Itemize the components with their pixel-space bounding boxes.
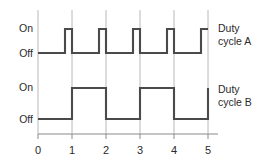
series-a-label-line1: Duty [218,22,240,34]
gridlines [38,10,208,134]
chart-canvas: On Off On Off 0 1 2 3 4 5 Duty [0,0,269,164]
x-tick-labels: 0 1 2 3 4 5 [35,144,211,156]
x-tick-label-3: 3 [137,144,143,156]
series-b-label-line1: Duty [218,83,240,95]
series-label-duty-cycle-b: Duty cycle B [218,83,252,108]
x-tick-label-0: 0 [35,144,41,156]
x-tick-label-1: 1 [69,144,75,156]
x-tick-label-4: 4 [171,144,177,156]
y-label-a-on: On [19,22,33,34]
x-tick-label-5: 5 [205,144,211,156]
y-label-a-off: Off [19,47,33,59]
duty-cycle-chart: On Off On Off 0 1 2 3 4 5 Duty [0,0,269,164]
x-tick-label-2: 2 [103,144,109,156]
waveform-duty-cycle-b [38,88,208,119]
waveform-duty-cycle-a [38,29,208,53]
series-a-label-line2: cycle A [218,35,251,47]
series-b-y-labels: On Off [19,81,33,125]
x-tick-marks [38,134,208,139]
y-label-b-on: On [19,81,33,93]
series-a-y-labels: On Off [19,22,33,59]
y-label-b-off: Off [19,113,33,125]
series-label-duty-cycle-a: Duty cycle A [218,22,251,47]
series-b-label-line2: cycle B [218,96,252,108]
